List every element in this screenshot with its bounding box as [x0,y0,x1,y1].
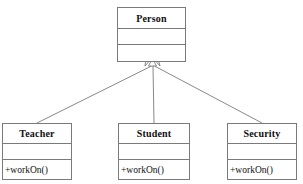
edge-person-security [155,66,263,123]
uml-class-diagram-canvas: Person Teacher +workOn() Student +workOn… [0,0,303,184]
class-name-security: Security [228,124,296,144]
class-attributes-person [118,29,185,45]
class-operations-student: +workOn() [119,160,189,179]
class-name-person: Person [118,8,185,29]
class-operations-security: +workOn() [228,160,296,179]
class-attributes-student [119,144,189,160]
class-name-student: Student [119,124,189,144]
edge-person-student [153,66,154,123]
class-attributes-teacher [3,144,71,160]
class-box-person[interactable]: Person [117,7,186,62]
class-box-teacher[interactable]: Teacher +workOn() [2,123,72,180]
class-box-student[interactable]: Student +workOn() [118,123,190,180]
edge-person-teacher [37,66,152,123]
class-name-teacher: Teacher [3,124,71,144]
class-operations-person [118,45,185,61]
class-attributes-security [228,144,296,160]
class-operations-teacher: +workOn() [3,160,71,179]
class-box-security[interactable]: Security +workOn() [227,123,297,180]
